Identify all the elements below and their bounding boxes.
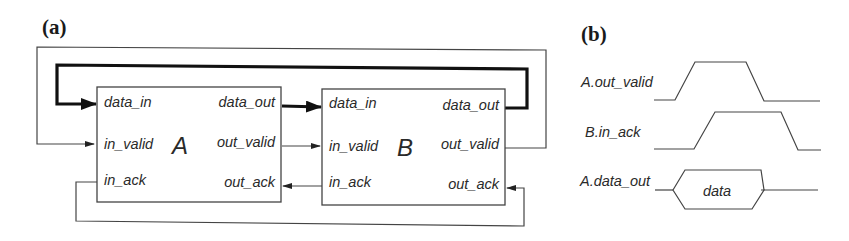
signal-label-a-data-out: A.data_out <box>579 173 651 189</box>
panel-b: (b) A.out_valid B.in_ack A.data_out data <box>579 22 821 209</box>
block-a-out-valid: out_valid <box>217 134 276 150</box>
signal-label-a-out-valid: A.out_valid <box>580 74 654 90</box>
block-b-data-in: data_in <box>329 95 377 111</box>
block-a-data-out: data_out <box>219 94 276 110</box>
block-b-in-ack: in_ack <box>329 174 372 190</box>
waveform-a-out-valid <box>654 62 820 101</box>
panel-b-label: (b) <box>581 22 607 46</box>
waveform-b-in-ack <box>654 112 821 150</box>
bus-data-label: data <box>703 183 731 199</box>
diagram-canvas: (a) data_in data_out in_valid out_valid … <box>0 0 849 241</box>
block-a: data_in data_out in_valid out_valid in_a… <box>97 87 281 202</box>
block-b: data_in data_out in_valid out_valid in_a… <box>322 89 505 205</box>
block-a-data-in: data_in <box>104 94 152 110</box>
panel-a-label: (a) <box>42 15 67 39</box>
block-b-in-valid: in_valid <box>329 138 379 154</box>
block-b-name: B <box>397 134 413 161</box>
block-b-out-valid: out_valid <box>441 136 500 152</box>
wire-a-dataout-to-b-datain <box>282 106 321 107</box>
block-a-in-ack: in_ack <box>104 172 147 188</box>
panel-a: (a) data_in data_out in_valid out_valid … <box>37 15 546 226</box>
signal-label-b-in-ack: B.in_ack <box>585 124 641 140</box>
block-b-data-out: data_out <box>443 97 500 113</box>
block-a-out-ack: out_ack <box>224 174 276 190</box>
block-a-name: A <box>170 132 188 159</box>
block-b-out-ack: out_ack <box>448 176 500 192</box>
block-a-in-valid: in_valid <box>104 136 154 152</box>
